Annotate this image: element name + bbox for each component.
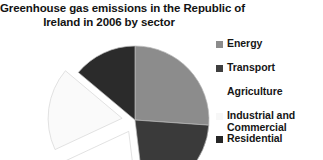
legend-label-industrial-and-commercial: Industrial andCommercial bbox=[227, 110, 295, 133]
legend-item-energy[interactable]: Energy bbox=[216, 38, 262, 50]
legend-item-residential[interactable]: Residential bbox=[216, 133, 282, 145]
pie-svg bbox=[0, 28, 218, 160]
legend-swatch-industrial-and-commercial bbox=[216, 113, 223, 120]
chart-title-line-2: Ireland in 2006 by sector bbox=[0, 15, 218, 29]
legend-label-transport: Transport bbox=[227, 62, 275, 74]
chart-title-line-1: Greenhouse gas emissions in the Republic… bbox=[0, 1, 218, 15]
legend-label-residential: Residential bbox=[227, 133, 282, 145]
chart-legend: Energy Transport Agriculture Industrial … bbox=[216, 38, 323, 156]
pie-slices bbox=[48, 46, 209, 160]
legend-item-transport[interactable]: Transport bbox=[216, 62, 275, 74]
pie-chart-figure: Greenhouse gas emissions in the Republic… bbox=[0, 0, 323, 160]
pie-slice-energy[interactable] bbox=[135, 46, 209, 125]
legend-label-industrial-line-2: Commercial bbox=[227, 121, 287, 133]
pie-plot-area bbox=[0, 28, 218, 160]
pie-slice-transport[interactable] bbox=[135, 120, 209, 160]
legend-label-agriculture: Agriculture bbox=[227, 86, 282, 98]
legend-swatch-energy bbox=[216, 41, 223, 48]
legend-swatch-residential bbox=[216, 136, 223, 143]
legend-item-industrial-and-commercial[interactable]: Industrial andCommercial bbox=[216, 110, 295, 133]
legend-item-agriculture[interactable]: Agriculture bbox=[216, 86, 282, 98]
legend-swatch-transport bbox=[216, 65, 223, 72]
legend-label-energy: Energy bbox=[227, 38, 262, 50]
legend-swatch-agriculture bbox=[216, 89, 223, 96]
chart-title: Greenhouse gas emissions in the Republic… bbox=[0, 1, 218, 29]
legend-label-industrial-line-1: Industrial and bbox=[227, 109, 295, 121]
